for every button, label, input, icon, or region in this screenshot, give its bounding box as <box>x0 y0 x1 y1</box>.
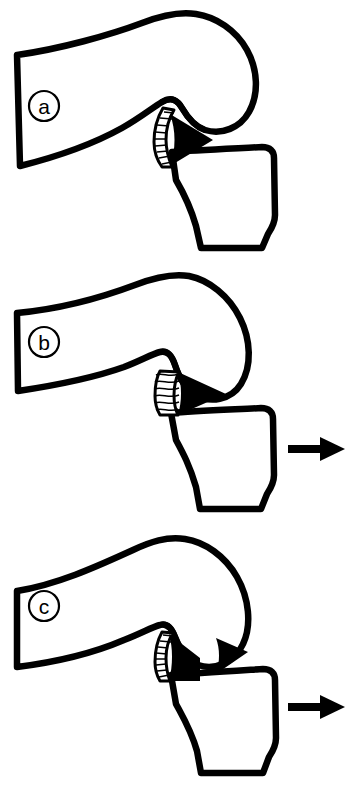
panel-label-letter-c: c <box>39 595 50 618</box>
panel-c: c <box>0 534 351 798</box>
panel-b: b <box>0 268 351 534</box>
acetabular-socket-a <box>172 147 275 248</box>
acetabular-socket-b <box>171 408 274 509</box>
panel-c-drawing: c <box>0 534 351 798</box>
panel-label-b: b <box>29 327 59 357</box>
acetabular-labrum-b <box>155 371 179 415</box>
traction-arrow-c <box>288 695 345 719</box>
iliac-wing-and-femoral-head-a <box>17 13 256 166</box>
labrum-outline-b <box>155 371 179 415</box>
figure-root: a <box>0 0 351 798</box>
panel-label-c: c <box>29 591 59 621</box>
panel-label-letter-a: a <box>38 95 50 118</box>
panel-label-a: a <box>29 91 59 121</box>
panel-b-drawing: b <box>0 268 351 534</box>
panel-label-letter-b: b <box>38 331 50 354</box>
panel-a: a <box>0 0 351 268</box>
panel-a-drawing: a <box>0 0 351 268</box>
traction-arrow-b <box>288 437 345 461</box>
acetabular-socket-c <box>171 669 276 773</box>
